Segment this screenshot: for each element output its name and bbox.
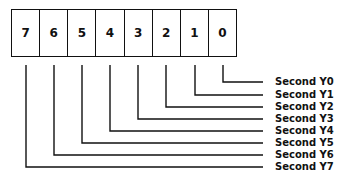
connector-bit-3 bbox=[138, 65, 263, 119]
connector-bit-7 bbox=[26, 65, 263, 167]
connector-bit-4 bbox=[110, 65, 263, 131]
connector-bit-1 bbox=[195, 65, 263, 95]
bit-register-diagram: 7 6 5 4 3 2 1 0 Second Y0 Second Y1 Seco… bbox=[0, 0, 345, 181]
output-label-y5: Second Y5 bbox=[275, 137, 334, 149]
connector-bit-2 bbox=[166, 65, 263, 107]
output-label-y1: Second Y1 bbox=[275, 89, 334, 101]
connector-bit-6 bbox=[54, 65, 263, 155]
output-label-y3: Second Y3 bbox=[275, 113, 334, 125]
output-label-y2: Second Y2 bbox=[275, 101, 334, 113]
output-label-y7: Second Y7 bbox=[275, 161, 334, 173]
output-label-y0: Second Y0 bbox=[275, 76, 334, 88]
connector-bit-0 bbox=[223, 65, 263, 82]
output-label-y6: Second Y6 bbox=[275, 149, 334, 161]
output-label-y4: Second Y4 bbox=[275, 125, 334, 137]
